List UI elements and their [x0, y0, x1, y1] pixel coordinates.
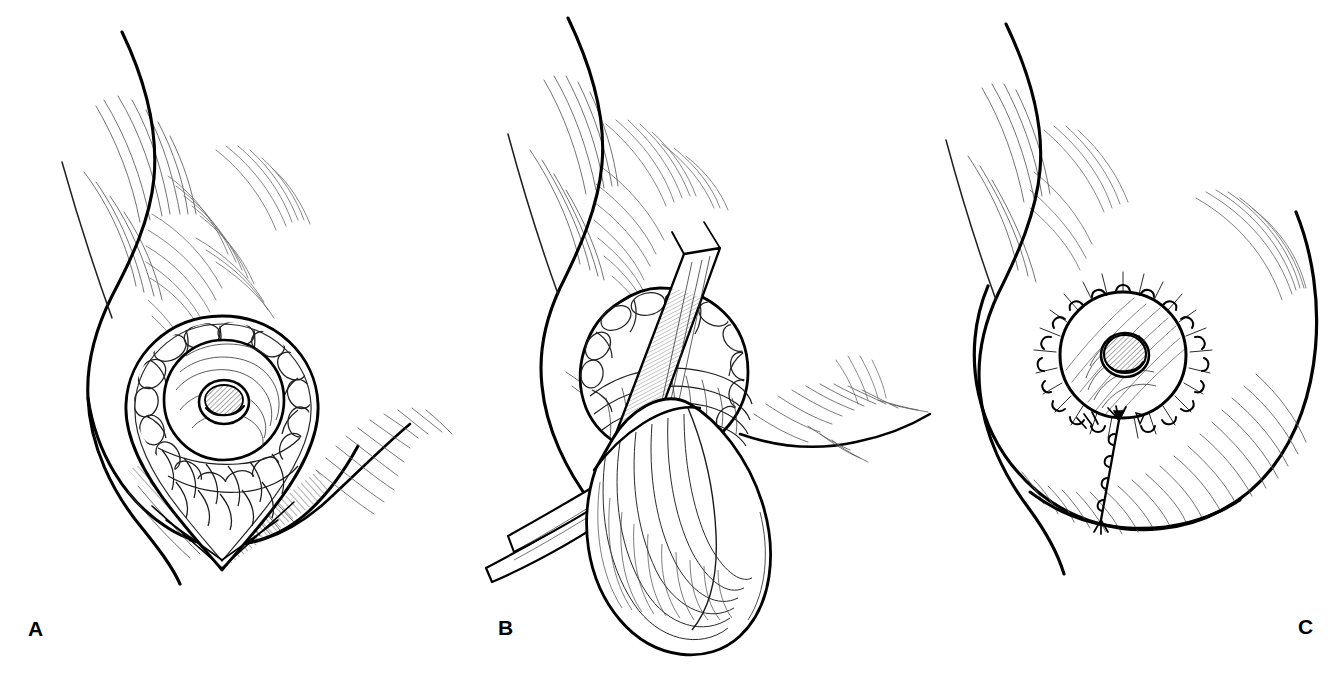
illustration-canvas — [0, 0, 1341, 673]
panel-label-c: C — [1298, 616, 1313, 637]
panel-label-a: A — [28, 618, 43, 639]
surgical-figure: A B C — [0, 0, 1341, 673]
panel-label-b: B — [498, 617, 513, 638]
